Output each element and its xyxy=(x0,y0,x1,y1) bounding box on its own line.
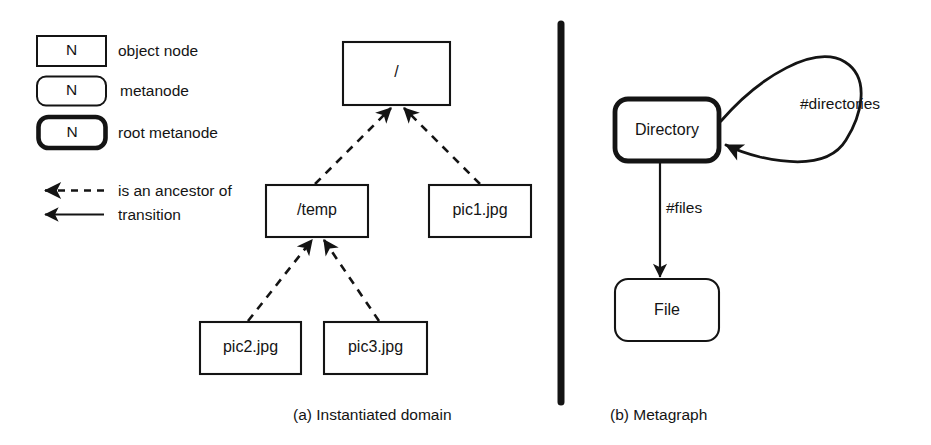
legend-swatch-object-node-glyph: N xyxy=(37,41,106,59)
legend-label-ancestor-edge: is an ancestor of xyxy=(118,182,232,200)
legend-label-transition-edge: transition xyxy=(118,206,181,224)
legend-swatch-root-metanode-glyph: N xyxy=(38,123,106,141)
node-pic3-label: pic3.jpg xyxy=(324,338,427,356)
edge-temp-to-root xyxy=(315,108,391,184)
node-file-label: File xyxy=(615,301,719,319)
node-directory-label: Directory xyxy=(615,121,719,139)
figure-root: N N N object node metanode root metanode… xyxy=(0,0,931,445)
legend-label-metanode: metanode xyxy=(120,82,189,100)
node-root-label: / xyxy=(343,63,450,81)
node-temp-label: /temp xyxy=(266,201,368,219)
node-pic2-label: pic2.jpg xyxy=(200,338,301,356)
legend-label-root-metanode: root metanode xyxy=(118,124,218,142)
edge-label-files: #files xyxy=(666,199,702,217)
edge-pic2-to-temp xyxy=(248,240,312,321)
edge-label-directories: #directories xyxy=(800,95,880,113)
edge-pic3-to-temp xyxy=(324,240,379,321)
caption-panel-a: (a) Instantiated domain xyxy=(293,406,452,424)
edge-pic1-to-root xyxy=(404,108,480,184)
node-pic1-label: pic1.jpg xyxy=(429,201,531,219)
legend-swatch-metanode-glyph: N xyxy=(37,81,106,99)
caption-panel-b: (b) Metagraph xyxy=(610,406,707,424)
legend-label-object-node: object node xyxy=(118,42,198,60)
